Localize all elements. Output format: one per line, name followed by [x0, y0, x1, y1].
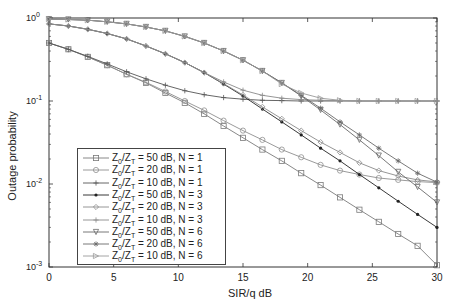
series-line — [46, 40, 439, 103]
y-tick-label: 10-1 — [26, 94, 42, 106]
legend-item: Z0/ZT = 50 dB, N = 6 — [78, 226, 225, 238]
legend-item: Z0/ZT = 10 dB, N = 3 — [78, 214, 225, 226]
legend-marker-icon — [80, 226, 112, 238]
legend-marker-icon — [80, 189, 112, 201]
legend-marker-icon — [80, 177, 112, 189]
legend-item: Z0/ZT = 20 dB, N = 1 — [78, 164, 225, 176]
chart-svg — [0, 0, 455, 307]
legend-label: Z0/ZT = 10 dB, N = 6 — [112, 250, 202, 266]
x-tick-label: 20 — [298, 272, 318, 283]
legend-marker-icon — [80, 201, 112, 213]
x-tick-label: 0 — [39, 272, 59, 283]
x-tick-label: 15 — [233, 272, 253, 283]
y-tick-label: 100 — [26, 11, 40, 23]
legend-marker-icon — [80, 238, 112, 250]
legend-item: Z0/ZT = 20 dB, N = 6 — [78, 238, 225, 250]
legend-marker-icon — [80, 214, 112, 226]
y-axis-label-wrap: Outage probability — [2, 100, 22, 220]
x-tick-label: 25 — [362, 272, 382, 283]
legend: Z0/ZT = 50 dB, N = 1Z0/ZT = 20 dB, N = 1… — [77, 148, 226, 265]
y-tick-label: 10-3 — [26, 260, 42, 272]
legend-item: Z0/ZT = 50 dB, N = 1 — [78, 152, 225, 164]
y-axis-label: Outage probability — [6, 96, 18, 216]
x-tick-label: 10 — [168, 272, 188, 283]
legend-marker-icon — [80, 164, 112, 176]
legend-item: Z0/ZT = 20 dB, N = 3 — [78, 201, 225, 213]
legend-item: Z0/ZT = 10 dB, N = 1 — [78, 177, 225, 189]
legend-item: Z0/ZT = 10 dB, N = 6 — [78, 250, 225, 262]
legend-item: Z0/ZT = 50 dB, N = 3 — [78, 189, 225, 201]
legend-marker-icon — [80, 250, 112, 262]
y-tick-label: 10-2 — [26, 177, 42, 189]
x-axis-label: SIR/q dB — [200, 287, 300, 299]
x-tick-label: 30 — [427, 272, 447, 283]
x-tick-label: 5 — [104, 272, 124, 283]
legend-marker-icon — [80, 152, 112, 164]
